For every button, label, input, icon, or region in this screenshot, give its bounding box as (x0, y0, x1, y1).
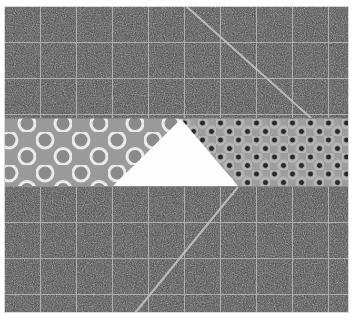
image-root: Dark noise-textured square with a light … (0, 0, 356, 323)
texture-canvas (0, 0, 356, 323)
